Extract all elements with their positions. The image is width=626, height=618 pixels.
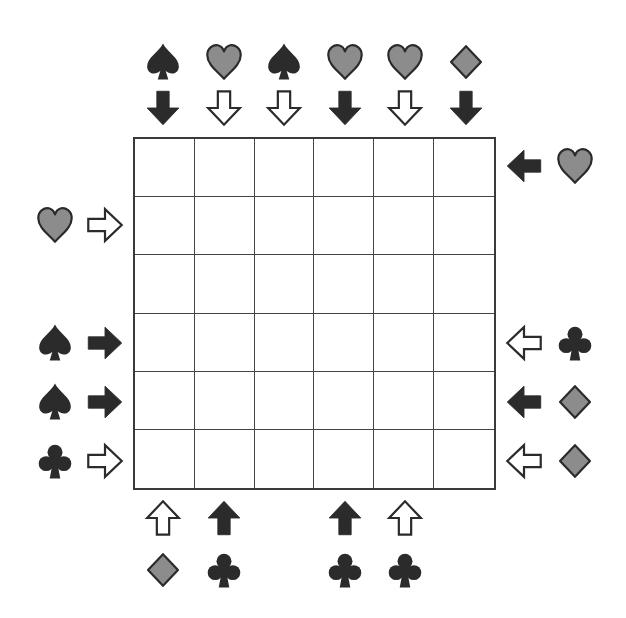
spade-icon	[141, 40, 185, 84]
spade-icon	[33, 380, 77, 424]
spade-icon	[33, 321, 77, 365]
grid-cell-r6-c3[interactable]	[255, 430, 315, 488]
club-icon	[33, 439, 77, 483]
club-icon	[202, 548, 246, 592]
arrow-down-icon	[323, 86, 367, 130]
grid-cell-r3-c2[interactable]	[195, 255, 255, 313]
grid-cell-r4-c1[interactable]	[135, 314, 195, 372]
arrow-up-icon	[383, 496, 427, 540]
grid-cell-r1-c1[interactable]	[135, 139, 195, 197]
grid-cell-r6-c2[interactable]	[195, 430, 255, 488]
heart-icon	[323, 40, 367, 84]
grid-cell-r6-c6[interactable]	[434, 430, 494, 488]
heart-icon	[383, 40, 427, 84]
grid-cell-r5-c1[interactable]	[135, 372, 195, 430]
arrow-left-icon	[502, 380, 546, 424]
arrow-left-icon	[502, 439, 546, 483]
arrow-down-icon	[383, 86, 427, 130]
club-icon	[553, 321, 597, 365]
grid-cell-r5-c2[interactable]	[195, 372, 255, 430]
grid-cell-r2-c3[interactable]	[255, 197, 315, 255]
grid-cell-r2-c6[interactable]	[434, 197, 494, 255]
arrow-up-icon	[323, 496, 367, 540]
grid-cell-r4-c4[interactable]	[314, 314, 374, 372]
grid-cell-r1-c2[interactable]	[195, 139, 255, 197]
grid-cell-r2-c5[interactable]	[374, 197, 434, 255]
grid-cell-r6-c4[interactable]	[314, 430, 374, 488]
arrow-right-icon	[83, 380, 127, 424]
arrow-right-icon	[83, 439, 127, 483]
grid-cell-r5-c6[interactable]	[434, 372, 494, 430]
grid-cell-r4-c6[interactable]	[434, 314, 494, 372]
grid-cell-r1-c3[interactable]	[255, 139, 315, 197]
arrow-left-icon	[502, 144, 546, 188]
puzzle-grid	[133, 137, 496, 490]
heart-icon	[202, 40, 246, 84]
arrow-down-icon	[444, 86, 488, 130]
grid-cell-r2-c4[interactable]	[314, 197, 374, 255]
grid-cell-r1-c5[interactable]	[374, 139, 434, 197]
arrow-up-icon	[202, 496, 246, 540]
grid-cell-r3-c6[interactable]	[434, 255, 494, 313]
grid-cell-r5-c4[interactable]	[314, 372, 374, 430]
arrow-up-icon	[141, 496, 185, 540]
grid-cell-r1-c6[interactable]	[434, 139, 494, 197]
grid-cell-r1-c4[interactable]	[314, 139, 374, 197]
grid-cell-r2-c1[interactable]	[135, 197, 195, 255]
grid-cell-r5-c3[interactable]	[255, 372, 315, 430]
arrow-down-icon	[262, 86, 306, 130]
arrow-down-icon	[141, 86, 185, 130]
grid-cell-r3-c3[interactable]	[255, 255, 315, 313]
club-icon	[323, 548, 367, 592]
grid-cell-r4-c5[interactable]	[374, 314, 434, 372]
grid-cell-r3-c1[interactable]	[135, 255, 195, 313]
diamond-icon	[141, 548, 185, 592]
diamond-icon	[553, 439, 597, 483]
grid-cell-r6-c1[interactable]	[135, 430, 195, 488]
heart-icon	[33, 203, 77, 247]
grid-cell-r5-c5[interactable]	[374, 372, 434, 430]
grid-cell-r4-c3[interactable]	[255, 314, 315, 372]
arrow-right-icon	[83, 321, 127, 365]
arrow-down-icon	[202, 86, 246, 130]
grid-cell-r2-c2[interactable]	[195, 197, 255, 255]
grid-cell-r3-c5[interactable]	[374, 255, 434, 313]
diamond-icon	[444, 40, 488, 84]
grid-cell-r4-c2[interactable]	[195, 314, 255, 372]
grid-cell-r3-c4[interactable]	[314, 255, 374, 313]
spade-icon	[262, 40, 306, 84]
club-icon	[383, 548, 427, 592]
grid-cell-r6-c5[interactable]	[374, 430, 434, 488]
heart-icon	[553, 144, 597, 188]
diamond-icon	[553, 380, 597, 424]
arrow-right-icon	[83, 203, 127, 247]
arrow-left-icon	[502, 321, 546, 365]
